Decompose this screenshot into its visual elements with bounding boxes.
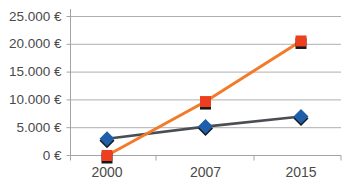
data-point-square — [102, 150, 113, 161]
x-axis-tick-label: 2007 — [190, 164, 221, 180]
data-point-square — [296, 35, 307, 46]
chart-canvas: 0 €5.000 €10.000 €15.000 €20.000 €25.000… — [0, 0, 348, 193]
y-axis-tick-labels: 0 €5.000 €10.000 €15.000 €20.000 €25.000… — [9, 9, 62, 163]
y-axis-tick-label: 10.000 € — [9, 92, 62, 107]
line-chart: 0 €5.000 €10.000 €15.000 €20.000 €25.000… — [0, 0, 348, 193]
y-axis-tick-label: 0 € — [43, 148, 62, 163]
series-markers-red — [102, 35, 307, 163]
y-axis-ticks — [67, 17, 71, 156]
x-axis-tick-label: 2015 — [285, 164, 316, 180]
y-axis-tick-label: 5.000 € — [16, 120, 62, 135]
y-axis-tick-label: 25.000 € — [9, 9, 62, 24]
data-point-diamond — [100, 131, 115, 146]
y-axis-tick-label: 20.000 € — [9, 36, 62, 51]
data-point-diamond — [294, 109, 309, 124]
x-axis-tick-labels: 200020072015 — [91, 164, 316, 180]
top-crop-strip — [0, 0, 348, 9]
x-axis-tick-label: 2000 — [91, 164, 122, 180]
data-point-square — [200, 96, 211, 107]
y-axis-tick-label: 15.000 € — [9, 64, 62, 79]
data-point-diamond — [198, 119, 213, 134]
